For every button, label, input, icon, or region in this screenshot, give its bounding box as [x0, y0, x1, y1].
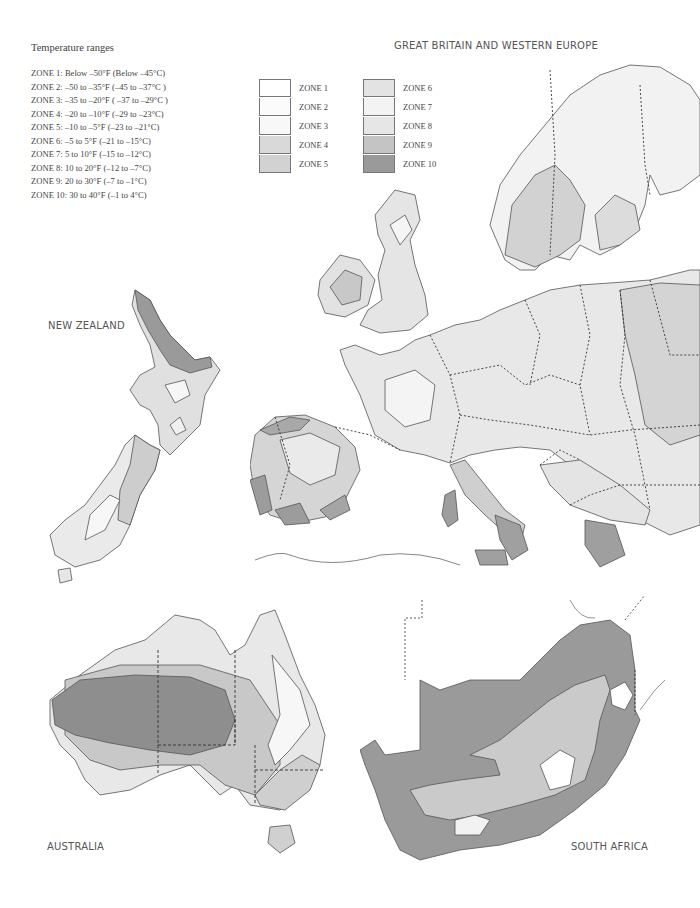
range-zone-6: ZONE 6: –5 to 5°F (–21 to –15°C)	[31, 135, 168, 149]
range-zone-9: ZONE 9: 20 to 30°F (–7 to –1°C)	[31, 175, 168, 189]
range-zone-8: ZONE 8: 10 to 20°F (–12 to –7°C)	[31, 162, 168, 176]
europe-map	[250, 55, 700, 575]
range-zone-10: ZONE 10: 30 to 40°F (–1 to 4°C)	[31, 189, 168, 203]
temperature-ranges-title: Temperature ranges	[31, 42, 168, 53]
range-zone-3: ZONE 3: –35 to –20°F ( –37 to –29°C )	[31, 94, 168, 108]
range-zone-4: ZONE 4: –20 to –10°F (–29 to –23°C)	[31, 108, 168, 122]
range-zone-2: ZONE 2: –50 to –35°F (–45 to –37°C )	[31, 81, 168, 95]
range-zone-7: ZONE 7: 5 to 10°F (–15 to –12°C)	[31, 148, 168, 162]
australia-map	[40, 595, 340, 865]
temperature-ranges: Temperature ranges ZONE 1: Below –50°F (…	[31, 42, 168, 202]
europe-map-label: GREAT BRITAIN AND WESTERN EUROPE	[394, 40, 598, 51]
new-zealand-map	[20, 285, 250, 585]
range-zone-1: ZONE 1: Below –50°F (Below –45°C)	[31, 67, 168, 81]
south-africa-map	[360, 580, 700, 880]
range-zone-5: ZONE 5: –10 to –5°F (–23 to –21°C)	[31, 121, 168, 135]
